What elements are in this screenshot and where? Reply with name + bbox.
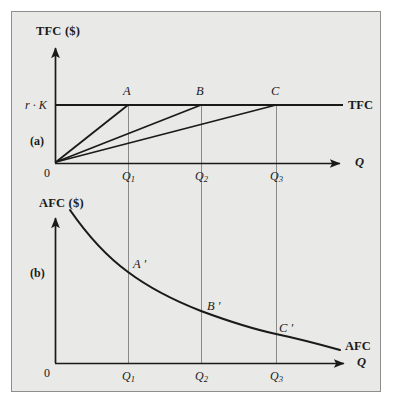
panel-a-drawing — [55, 48, 343, 164]
point-label-c-prime: C ′ — [279, 322, 293, 335]
panel-a-xtick-q2-base: Q — [195, 169, 204, 183]
point-label-a: A — [123, 85, 131, 98]
panel-a-xtick-q2: Q2 — [195, 170, 208, 183]
point-label-c: C — [271, 85, 279, 98]
panel-b-xtick-q1: Q1 — [122, 370, 135, 383]
panel-b-xtick-q3-base: Q — [270, 369, 279, 383]
panel-b-xtick-q3: Q3 — [270, 370, 283, 383]
panel-a-xtick-q2-sub: 2 — [204, 174, 208, 184]
panel-b-xtick-q2-base: Q — [195, 369, 204, 383]
panel-b-xtick-q1-sub: 1 — [131, 374, 135, 384]
connector-lines — [129, 105, 277, 363]
panel-b-xtick-q3-sub: 3 — [279, 374, 283, 384]
ray-origin-to-c — [56, 105, 276, 162]
point-label-a-prime: A ′ — [133, 258, 146, 271]
panel-a-xtick-q1-base: Q — [122, 169, 131, 183]
panel-b-xtick-q1-base: Q — [122, 369, 131, 383]
figure-root: TFC ($) (a) r · K 0 Q TFC A B C Q1 Q2 Q3… — [0, 0, 394, 404]
point-label-b: B — [196, 85, 204, 98]
panel-b-xtick-q2: Q2 — [195, 370, 208, 383]
panel-b-y-axis-title: AFC ($) — [39, 197, 84, 210]
panel-a-rk-label: r · K — [25, 99, 47, 111]
afc-curve-label: AFC — [345, 340, 371, 353]
panel-a-xtick-q3: Q3 — [270, 170, 283, 183]
panel-a-origin-label: 0 — [44, 167, 50, 179]
panel-b-x-axis-title: Q — [357, 356, 366, 369]
panel-a-x-axis-title: Q — [355, 156, 364, 169]
panel-a-xtick-q3-sub: 3 — [279, 174, 283, 184]
point-label-b-prime: B ′ — [207, 300, 221, 313]
panel-b-drawing — [55, 210, 344, 364]
panel-b-origin-label: 0 — [44, 367, 50, 379]
panel-a-id-label: (a) — [30, 135, 44, 147]
panel-a-xtick-q1-sub: 1 — [131, 174, 135, 184]
panel-a-xtick-q3-base: Q — [270, 169, 279, 183]
tfc-curve-label: TFC — [348, 99, 373, 112]
panel-a-y-axis-title: TFC ($) — [36, 25, 80, 38]
panel-b-id-label: (b) — [30, 267, 45, 279]
afc-curve — [70, 210, 340, 350]
panel-a-xtick-q1: Q1 — [122, 170, 135, 183]
panel-b-xtick-q2-sub: 2 — [204, 374, 208, 384]
